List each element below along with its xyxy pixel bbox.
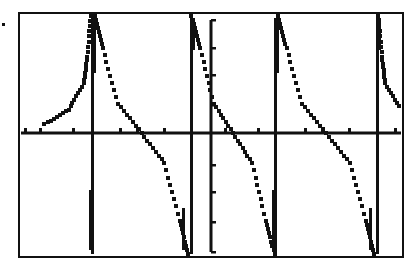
curve-pixel [378, 29, 382, 33]
curve-pixel [128, 116, 132, 120]
curve-pixel [166, 176, 170, 180]
y-tick [211, 74, 216, 77]
curve-pixel [378, 34, 382, 38]
y-tick [211, 191, 216, 194]
curve-pixel [336, 146, 340, 150]
curve-pixel [358, 197, 362, 201]
curve-pixel [265, 223, 269, 227]
curve-pixel [231, 131, 235, 135]
y-tick [211, 19, 216, 22]
curve-pixel [72, 98, 76, 102]
curve-pixel [303, 105, 307, 109]
curve-pixel [137, 127, 141, 131]
y-axis [210, 20, 213, 252]
curve-pixel [86, 45, 90, 49]
asymptote-line [190, 18, 193, 254]
curve-pixel [339, 150, 343, 154]
curve-pixel [250, 161, 254, 165]
curve-pixel [365, 223, 369, 227]
curve-pixel [108, 74, 112, 78]
curve-pixel [184, 244, 188, 248]
curve-pixel [377, 19, 381, 23]
curve-pixel [298, 95, 302, 99]
curve-pixel [233, 135, 237, 139]
curve-pixel [88, 19, 92, 23]
curve-pixel [324, 131, 328, 135]
curve-pixel [368, 235, 372, 239]
cotangent-curve [42, 14, 401, 256]
function-plot [0, 0, 407, 270]
curve-pixel [292, 74, 296, 78]
y-tick [211, 164, 216, 167]
curve-pixel [273, 252, 277, 256]
asymptote-bar [89, 190, 94, 250]
curve-pixel [174, 204, 178, 208]
curve-pixel [260, 204, 264, 208]
curve-pixel [296, 88, 300, 92]
curve-pixel [380, 50, 384, 54]
curve-pixel [207, 81, 211, 85]
y-tick [211, 221, 216, 224]
curve-pixel [376, 14, 380, 18]
x-tick [72, 128, 75, 132]
curve-pixel [195, 34, 199, 38]
y-tick [211, 47, 216, 50]
curve-pixel [221, 116, 225, 120]
curve-pixel [270, 244, 274, 248]
curve-pixel [362, 212, 366, 216]
curve-pixel [97, 30, 101, 34]
curve-pixel [172, 197, 176, 201]
curve-pixel [345, 157, 349, 161]
x-tick [24, 128, 27, 132]
curve-pixel [148, 142, 152, 146]
curve-pixel [180, 227, 184, 231]
curve-pixel [315, 120, 319, 124]
x-tick [394, 128, 397, 132]
curve-pixel [287, 53, 291, 57]
curve-pixel [196, 38, 200, 42]
curve-pixel [352, 176, 356, 180]
curve-pixel [164, 168, 168, 172]
curve-pixel [306, 109, 310, 113]
curve-pixel [89, 14, 93, 18]
curve-pixel [112, 88, 116, 92]
axes [21, 19, 401, 254]
curve-pixel [254, 176, 258, 180]
curve-pixel [87, 29, 91, 33]
curve-pixel [208, 88, 212, 92]
x-tick [224, 128, 227, 132]
curve-pixel [140, 131, 144, 135]
curve-pixel [379, 40, 383, 44]
dot [2, 23, 5, 26]
curve-pixel [391, 94, 395, 98]
curve-pixel [285, 46, 289, 50]
curve-pixel [356, 190, 360, 194]
curve-pixel [279, 26, 283, 30]
curve-pixel [366, 227, 370, 231]
curve-pixel [276, 14, 280, 18]
curve-pixel [189, 14, 193, 18]
curve-pixel [266, 227, 270, 231]
curve-pixel [383, 81, 387, 85]
curve-pixel [364, 219, 368, 223]
curve-pixel [183, 240, 187, 244]
curve-pixel [202, 60, 206, 64]
curve-pixel [350, 168, 354, 172]
curve-pixel [272, 248, 276, 252]
curve-pixel [214, 105, 218, 109]
curve-pixel [259, 197, 263, 201]
calculator-graph-screen [0, 0, 407, 270]
curve-pixel [87, 34, 91, 38]
x-tick [257, 128, 260, 132]
curve-pixel [154, 150, 158, 154]
curve-pixel [283, 42, 287, 46]
x-tick [348, 128, 351, 132]
curve-pixel [88, 24, 92, 28]
curve-pixel [98, 34, 102, 38]
curve-pixel [186, 252, 190, 256]
cursor-dot-icon [2, 23, 5, 26]
curve-pixel [182, 235, 186, 239]
curve-pixel [170, 190, 174, 194]
curve-pixel [176, 212, 180, 216]
curve-pixel [348, 161, 352, 165]
